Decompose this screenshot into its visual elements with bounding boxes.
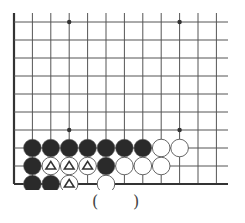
go-board	[0, 0, 245, 190]
white-stone	[97, 175, 115, 190]
black-stone	[42, 139, 60, 157]
answer-blank-open: (	[92, 192, 98, 211]
black-stone	[60, 139, 78, 157]
white-stone	[79, 157, 97, 175]
white-stone	[152, 139, 170, 157]
black-stone	[97, 157, 115, 175]
black-stone	[42, 175, 60, 190]
star-point	[67, 128, 71, 132]
star-point	[177, 128, 181, 132]
stones	[24, 139, 189, 190]
white-stone	[152, 157, 170, 175]
black-stone	[97, 139, 115, 157]
black-stone	[24, 157, 42, 175]
white-stone	[171, 139, 189, 157]
black-stone	[116, 139, 134, 157]
white-stone	[60, 175, 78, 190]
white-stone	[116, 157, 134, 175]
white-stone	[60, 157, 78, 175]
black-stone	[134, 139, 152, 157]
black-stone	[24, 175, 42, 190]
star-point	[177, 20, 181, 24]
black-stone	[24, 139, 42, 157]
white-stone	[42, 157, 60, 175]
black-stone	[79, 139, 97, 157]
star-point	[67, 20, 71, 24]
answer-blank-close: )	[133, 192, 139, 211]
white-stone	[134, 157, 152, 175]
